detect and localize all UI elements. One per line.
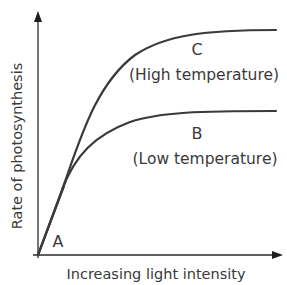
y-axis-arrow-icon [34, 11, 42, 22]
label-b-text: (Low temperature) [133, 150, 278, 168]
label-b-letter: B [192, 124, 203, 143]
label-c-letter: C [191, 40, 202, 59]
x-axis-arrow-icon [272, 251, 283, 259]
x-axis-label: Increasing light intensity [66, 266, 246, 282]
photosynthesis-graph: C (High temperature) B (Low temperature)… [0, 0, 287, 285]
label-a: A [53, 232, 64, 251]
curve-c-high-temperature [38, 30, 276, 255]
y-axis-label: Rate of photosynthesis [9, 63, 25, 230]
label-c-text: (High temperature) [129, 66, 279, 84]
